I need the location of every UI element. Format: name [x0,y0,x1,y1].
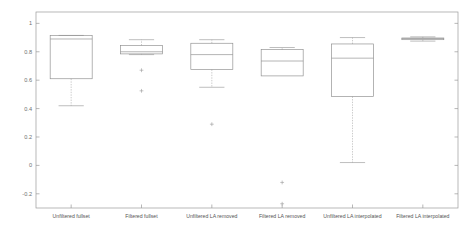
x-tick-label-5: Unfiltered LA interpolated [323,213,381,219]
y-tick-label: 0.4 [24,106,32,112]
x-tick-label-3: Unfiltered LA removed [186,213,237,219]
box-iqr [191,43,233,69]
y-tick-label: 0.2 [24,134,32,140]
x-tick-label-2: Filtered fullset [125,213,158,219]
box-iqr [50,35,92,78]
x-tick-label-6: Filtered LA interpolated [396,213,449,219]
boxplot-figure: -0.200.20.40.60.81Unfiltered fullsetFilt… [0,0,469,237]
y-tick-label: 0.6 [24,77,32,83]
boxplot-canvas: -0.200.20.40.60.81Unfiltered fullsetFilt… [0,0,469,237]
y-tick-label: 0 [29,162,32,168]
x-tick-label-4: Filtered LA removed [259,213,306,219]
y-tick-label: 0.8 [24,49,32,55]
box-iqr [121,45,163,54]
box-iqr [332,44,374,97]
box-iqr [261,50,303,76]
plot-frame [36,12,458,208]
y-tick-label: -0.2 [22,191,32,197]
y-tick-label: 1 [29,20,32,26]
x-tick-label-1: Unfiltered fullset [53,213,91,219]
